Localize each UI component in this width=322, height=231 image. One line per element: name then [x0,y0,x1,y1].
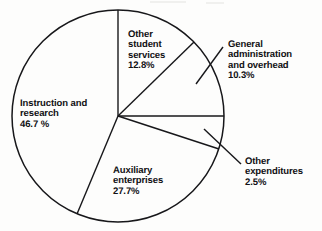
slice-label-other-expenditures: Other expenditures 2.5% [245,146,319,199]
slice-label-text: Auxiliary enterprises [113,165,163,187]
slice-label-text: Instruction and research [20,98,87,120]
slice-label-text: General administration and overhead [228,39,292,71]
slice-label-value: 10.3% [228,71,320,82]
slice-label-text: Other student services [128,29,165,61]
slice-label-instruction-and-research: Instruction and research 46.7 % [20,88,106,141]
slice-divider-other-auxiliary [118,116,219,149]
slice-label-other-student-services: Other student services 12.8% [128,19,186,83]
slice-label-value: 12.8% [128,61,186,72]
slice-label-general-administration: General administration and overhead 10.3… [228,29,320,93]
leader-line-general-administration [196,47,223,84]
slice-label-auxiliary-enterprises: Auxiliary enterprises 27.7% [113,155,187,208]
pie-chart-figure: Other student services 12.8% General adm… [0,0,322,231]
slice-label-value: 27.7% [113,187,187,198]
slice-label-text: Other expenditures [245,156,303,178]
slice-label-value: 46.7 % [20,120,106,131]
slice-label-value: 2.5% [245,178,319,189]
